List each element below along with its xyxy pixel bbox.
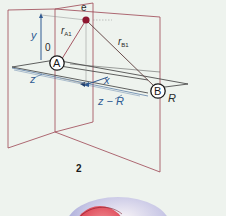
y-axis <box>39 13 43 60</box>
origin-label: 0 <box>45 43 51 53</box>
y-axis-label: y <box>31 30 37 41</box>
atom-a-label: A <box>53 58 60 69</box>
r-a1-subscript: A1 <box>64 31 71 37</box>
r-a1-label: rA1 <box>61 26 72 37</box>
x-axis-label: x <box>104 75 110 86</box>
r-b1-label: rB1 <box>118 37 129 48</box>
electron-label: e <box>81 3 87 13</box>
r-distance-label: R <box>168 93 176 104</box>
z-minus-r-label: z − R <box>98 96 124 107</box>
guide-lines <box>41 15 112 84</box>
atom-b-label: B <box>154 86 161 97</box>
r-b1-line <box>86 20 156 88</box>
figure-number: 2 <box>76 163 82 174</box>
z-axis-label: z <box>30 74 36 85</box>
diagram-figure-2: e 0 y x z z − R R rA1 rB1 A B 2 <box>0 0 226 216</box>
r-b1-subscript: B1 <box>121 42 128 48</box>
electron-dot <box>82 16 89 23</box>
orbital-shape <box>66 197 170 216</box>
